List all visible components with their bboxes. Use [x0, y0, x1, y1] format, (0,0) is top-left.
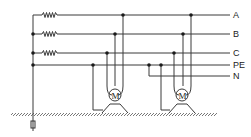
resistor-b [33, 32, 57, 37]
svg-text:M: M [179, 91, 187, 101]
label-c: C [233, 48, 240, 58]
label-pe: PE [233, 60, 245, 70]
wiring-diagram: A B C PE N M M [0, 0, 251, 137]
motor-2: M [147, 13, 195, 113]
resistor-a [33, 13, 57, 18]
label-n: N [233, 71, 240, 81]
ground-surface-right [110, 113, 217, 116]
label-a: A [233, 10, 239, 20]
svg-text:M: M [112, 91, 120, 101]
resistor-c [33, 51, 57, 56]
ground-surface-left [11, 113, 110, 116]
label-b: B [233, 29, 239, 39]
motor-1: M [91, 13, 128, 113]
